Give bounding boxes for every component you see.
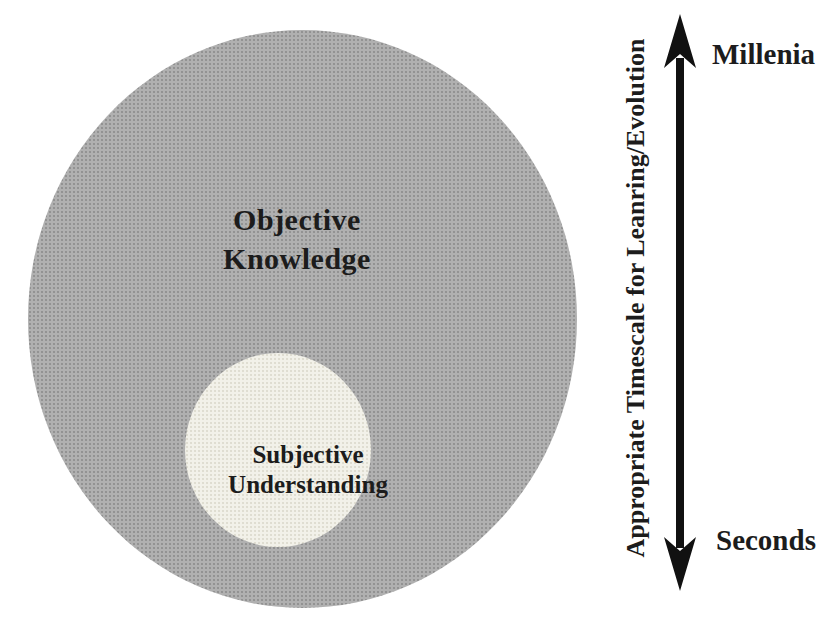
double-arrow-icon <box>656 10 706 595</box>
objective-knowledge-label: Objective Knowledge <box>147 200 447 278</box>
objective-knowledge-label-line2: Knowledge <box>147 239 447 278</box>
objective-knowledge-label-line1: Objective <box>147 200 447 239</box>
subjective-understanding-label-line1: Subjective <box>188 440 428 470</box>
figure-canvas: Objective Knowledge Subjective Understan… <box>0 0 829 618</box>
timescale-axis-title: Appropriate Timescale for Leanring/Evolu… <box>621 38 659 558</box>
subjective-understanding-label-line2: Understanding <box>188 470 428 500</box>
millenia-label: Millenia <box>712 38 815 71</box>
subjective-understanding-label: Subjective Understanding <box>188 440 428 500</box>
seconds-label: Seconds <box>716 524 816 557</box>
